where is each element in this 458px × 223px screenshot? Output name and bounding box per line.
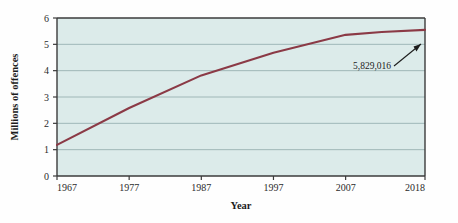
y-tick-label: 6 [44, 13, 49, 24]
x-tick-label: 1997 [263, 182, 283, 193]
y-axis-title: Millions of offences [9, 54, 20, 141]
x-tick-label: 2018 [405, 182, 425, 193]
x-tick-label: 1987 [191, 182, 211, 193]
y-tick-label: 1 [44, 144, 49, 155]
y-tick-label: 0 [44, 171, 49, 182]
y-tick-label: 5 [44, 39, 49, 50]
annotation-value-label: 5,829,016 [353, 61, 391, 71]
x-tick-label: 1977 [119, 182, 139, 193]
x-axis-title: Year [231, 200, 252, 211]
x-tick-label: 1967 [57, 182, 77, 193]
y-tick-label: 3 [44, 92, 49, 103]
chart-figure: 0123456 196719771987199720072018 5,829,0… [0, 0, 458, 223]
y-tick-label: 4 [44, 65, 49, 76]
x-tick-label: 2007 [336, 182, 356, 193]
y-tick-label: 2 [44, 118, 49, 129]
line-chart: 0123456 196719771987199720072018 5,829,0… [0, 0, 458, 223]
